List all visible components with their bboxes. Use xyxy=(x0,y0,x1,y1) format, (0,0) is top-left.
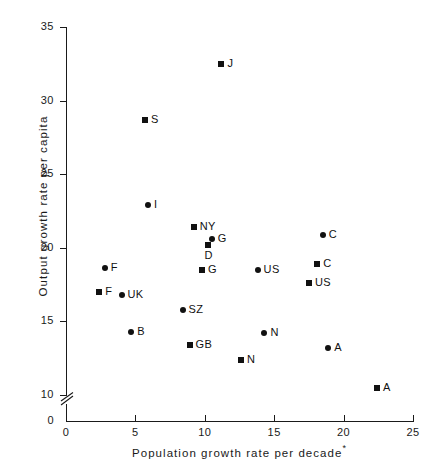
data-point-marker xyxy=(314,261,320,267)
data-point-label: C xyxy=(329,229,337,240)
y-axis-title: Output growth rate per capita xyxy=(37,81,49,331)
data-point-marker xyxy=(145,202,151,208)
y-tick-label-text: 35 xyxy=(22,20,54,32)
data-point-marker xyxy=(374,385,380,391)
y-tick-mark xyxy=(60,101,67,102)
data-point-marker xyxy=(128,329,134,335)
y-tick-label: 35 xyxy=(22,20,54,34)
data-point-label: F xyxy=(105,286,112,297)
data-point-label: J xyxy=(227,58,233,69)
x-tick-mark xyxy=(413,415,414,422)
data-point-marker xyxy=(238,357,244,363)
y-axis-line xyxy=(66,27,67,395)
data-point-label: GB xyxy=(196,339,213,350)
x-tick-label: 15 xyxy=(254,426,294,440)
x-tick-mark xyxy=(135,415,136,422)
data-point-marker xyxy=(199,267,205,273)
y-tick-mark xyxy=(60,395,67,396)
x-tick-label: 25 xyxy=(393,426,433,440)
scatter-chart: 1015202530350 0510152025 JSINYGDCFCGUSUS… xyxy=(0,0,441,475)
data-point-label: G xyxy=(208,264,217,275)
data-point-marker xyxy=(180,307,186,313)
data-point-label: UK xyxy=(128,289,144,300)
data-point-label: SZ xyxy=(189,304,204,315)
x-axis-title-text: Population growth rate per decade xyxy=(132,447,342,459)
y-axis-origin-label-text: 0 xyxy=(22,414,54,426)
y-tick-label: 10 xyxy=(22,388,54,402)
x-tick-mark xyxy=(344,415,345,422)
data-point-label: I xyxy=(154,199,157,210)
data-point-label: A xyxy=(334,342,342,353)
x-tick-label: 0 xyxy=(46,426,86,440)
data-point-marker xyxy=(205,242,211,248)
data-point-marker xyxy=(187,342,193,348)
data-point-marker xyxy=(255,267,261,273)
data-point-marker xyxy=(325,345,331,351)
y-tick-label-text: 10 xyxy=(22,388,54,400)
x-axis-title: Population growth rate per decade* xyxy=(66,447,413,459)
data-point-marker xyxy=(142,117,148,123)
y-tick-mark xyxy=(60,174,67,175)
data-point-marker xyxy=(261,330,267,336)
x-tick-label: 20 xyxy=(324,426,364,440)
x-tick-mark xyxy=(274,415,275,422)
data-point-marker xyxy=(320,232,326,238)
data-point-label: G xyxy=(218,233,227,244)
data-point-marker xyxy=(306,280,312,286)
data-point-marker xyxy=(119,292,125,298)
y-tick-mark xyxy=(60,321,67,322)
x-tick-label: 10 xyxy=(185,426,225,440)
data-point-marker xyxy=(96,289,102,295)
data-point-marker xyxy=(218,61,224,67)
data-point-label: A xyxy=(383,382,391,393)
x-axis-line xyxy=(66,421,413,422)
data-point-label: NY xyxy=(200,221,216,232)
x-tick-mark xyxy=(66,415,67,422)
data-point-marker xyxy=(102,265,108,271)
data-point-label: US xyxy=(315,277,331,288)
data-point-label: D xyxy=(205,250,213,261)
data-point-label: F xyxy=(111,262,118,273)
x-axis-footnote-marker: * xyxy=(342,443,347,453)
y-tick-mark xyxy=(60,248,67,249)
data-point-label: N xyxy=(247,354,255,365)
data-point-label: N xyxy=(270,327,278,338)
data-point-marker xyxy=(191,224,197,230)
x-tick-label: 5 xyxy=(115,426,155,440)
x-tick-mark xyxy=(205,415,206,422)
y-tick-mark xyxy=(60,27,67,28)
data-point-label: S xyxy=(151,114,159,125)
data-point-label: C xyxy=(323,258,331,269)
data-point-label: B xyxy=(137,326,145,337)
data-point-label: US xyxy=(264,264,280,275)
